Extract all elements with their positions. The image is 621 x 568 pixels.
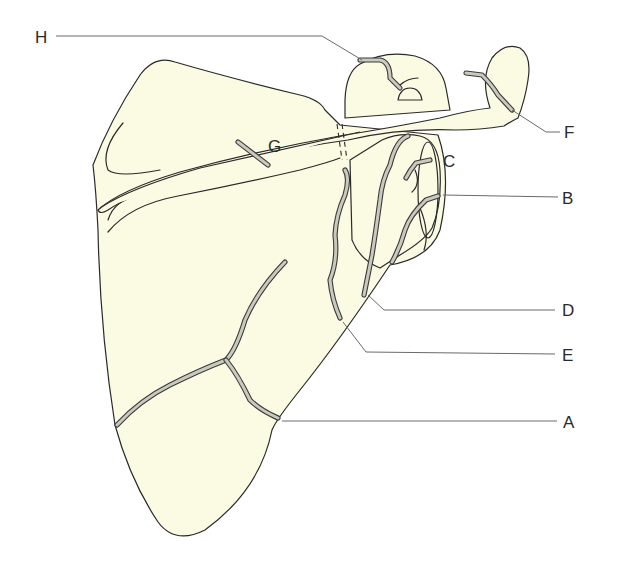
leader-e	[343, 322, 555, 354]
label-g: G	[268, 137, 281, 156]
label-e: E	[562, 346, 573, 365]
label-h: H	[35, 28, 47, 47]
leader-d	[368, 295, 555, 310]
scapula-diagram: H G F C B D E A	[0, 0, 621, 568]
leader-b	[443, 195, 558, 197]
label-a: A	[563, 413, 575, 432]
label-b: B	[562, 189, 573, 208]
label-c: C	[443, 152, 455, 171]
label-d: D	[562, 301, 574, 320]
leader-h	[56, 36, 362, 60]
label-f: F	[564, 123, 574, 142]
